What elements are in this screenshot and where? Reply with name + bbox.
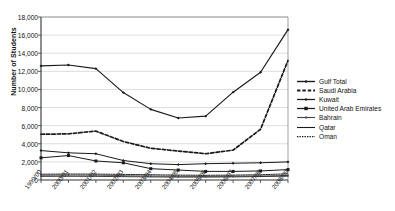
y-tick-label: 8,000	[4, 104, 38, 111]
legend-item[interactable]: Gulf Total	[296, 77, 381, 86]
legend-item-label: Oman	[319, 132, 337, 141]
legend-item-label: Bahrain	[319, 113, 342, 122]
legend-item[interactable]: Saudi Arabia	[296, 86, 381, 95]
legend-swatch-icon	[296, 86, 316, 95]
legend-item[interactable]: Kuwait	[296, 95, 381, 104]
legend-item[interactable]: Oman	[296, 132, 381, 141]
legend-item-label: Qatar	[319, 123, 336, 132]
legend-swatch-icon	[296, 95, 316, 104]
legend-item-label: Kuwait	[319, 95, 339, 104]
series-marker	[94, 159, 97, 162]
series-marker	[67, 154, 70, 157]
legend-swatch-icon	[296, 77, 316, 86]
legend-item[interactable]: Bahrain	[296, 113, 381, 122]
y-tick-label: 16,000	[4, 32, 38, 39]
y-tick-label: 4,000	[4, 140, 38, 147]
legend-item-label: United Arab Emirates	[319, 104, 381, 113]
legend-item-label: Saudi Arabia	[319, 86, 356, 95]
series-marker	[122, 161, 125, 164]
legend-swatch-icon	[296, 104, 316, 113]
y-tick-label: 6,000	[4, 122, 38, 129]
y-tick-label: 12,000	[4, 68, 38, 75]
y-tick-label: 14,000	[4, 50, 38, 57]
legend-swatch-icon	[296, 113, 316, 122]
legend-item[interactable]: United Arab Emirates	[296, 104, 381, 113]
plot-background	[41, 17, 288, 180]
legend-item[interactable]: Qatar	[296, 122, 381, 131]
chart-container: Number of Students 02,0004,0006,0008,000…	[0, 0, 395, 211]
y-tick-label: 2,000	[4, 158, 38, 165]
y-tick-label: 10,000	[4, 86, 38, 93]
series-marker	[40, 156, 43, 159]
y-tick-label: 18,000	[4, 14, 38, 21]
legend-swatch-icon	[296, 123, 316, 132]
legend-item-label: Gulf Total	[319, 77, 347, 86]
legend-swatch-icon	[296, 132, 316, 141]
chart-legend: Gulf TotalSaudi ArabiaKuwaitUnited Arab …	[296, 77, 381, 141]
